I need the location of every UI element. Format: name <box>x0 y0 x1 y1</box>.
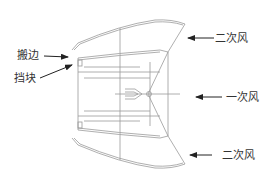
block-label: 挡块 <box>14 73 36 85</box>
annotation-arrows <box>40 38 222 155</box>
primary-air-nozzle-body <box>78 52 180 136</box>
secondary-air-top-label: 二次风 <box>215 33 248 45</box>
flange-label: 搬边 <box>17 50 39 62</box>
primary-air-label: 一次风 <box>226 92 259 104</box>
top-block <box>78 60 82 66</box>
flange-arrow-icon <box>44 56 68 57</box>
bottom-block <box>78 122 82 128</box>
secondary-air-bottom-label: 二次风 <box>222 150 255 162</box>
block-arrow-icon <box>40 65 72 78</box>
